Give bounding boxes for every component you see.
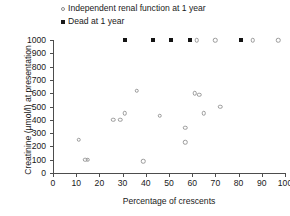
x-axis-tick-label: 0 [51,178,56,188]
chart-legend: Independent renal function at 1 year Dea… [58,3,206,27]
filled-square-marker-icon [58,20,68,24]
legend-item-label: Independent renal function at 1 year [68,3,206,14]
data-point [111,118,116,123]
y-axis-tick-label: 800 [32,62,46,72]
data-point [183,126,188,131]
x-axis-tick [215,173,216,177]
y-axis-tick-label: 500 [32,102,46,112]
data-point [151,38,155,42]
y-axis-tick-label: 900 [32,48,46,58]
legend-item-dead-at-1-year: Dead at 1 year [58,16,206,27]
y-axis-tick: 900 [50,53,54,54]
legend-item-label: Dead at 1 year [68,16,124,27]
x-axis-tick [239,173,240,177]
plot-area: 01002003004005006007008009001000 0102030… [53,40,285,173]
x-axis-tick [53,173,54,177]
y-axis-tick: 200 [50,146,54,147]
x-axis-tick [192,173,193,177]
y-axis-tick-label: 1000 [27,35,46,45]
x-axis-tick-label: 100 [278,178,290,188]
data-point [276,38,281,43]
y-axis-tick: 100 [50,160,54,161]
y-axis-tick: 1000 [50,40,54,41]
x-axis-tick-label: 80 [234,178,244,188]
legend-item-independent-renal-function: Independent renal function at 1 year [58,3,206,14]
data-point [86,157,91,162]
data-point [195,38,200,43]
x-axis-tick [123,173,124,177]
data-point [76,138,81,143]
y-axis-tick: 400 [50,120,54,121]
y-axis-tick-label: 300 [32,128,46,138]
data-point [183,140,188,145]
data-point [118,118,123,123]
y-axis-tick-label: 400 [32,115,46,125]
y-axis-tick: 300 [50,133,54,134]
y-axis-tick: 500 [50,107,54,108]
data-point [213,38,218,43]
data-point [218,104,223,109]
open-circle-marker-icon [58,7,68,11]
x-axis-tick-label: 90 [257,178,267,188]
y-axis-tick: 600 [50,93,54,94]
x-axis-tick [169,173,170,177]
y-axis-tick-label: 700 [32,75,46,85]
x-axis-tick-label: 50 [164,178,174,188]
y-axis-tick-label: 200 [32,141,46,151]
y-axis-tick: 800 [50,67,54,68]
y-axis-tick-label: 600 [32,88,46,98]
x-axis-tick-label: 40 [141,178,151,188]
data-point [123,111,128,116]
data-point [202,111,207,116]
x-axis-tick [99,173,100,177]
x-axis-tick [76,173,77,177]
data-point [134,88,139,93]
x-axis-tick [285,173,286,177]
x-axis-title: Percentage of crescents [53,196,285,206]
data-point [157,114,162,119]
x-axis-tick-label: 60 [187,178,197,188]
data-point [250,38,255,43]
data-point [169,38,173,42]
x-axis-tick-label: 20 [95,178,105,188]
x-axis-tick [146,173,147,177]
data-point [197,92,202,97]
data-point [239,38,243,42]
x-axis-tick-label: 70 [211,178,221,188]
y-axis-tick-label: 0 [41,168,46,178]
data-point [188,38,192,42]
x-axis-tick-label: 30 [118,178,128,188]
data-point [141,159,146,164]
data-point [123,38,127,42]
x-axis-tick-label: 10 [71,178,81,188]
y-axis-tick: 700 [50,80,54,81]
y-axis-tick-label: 100 [32,155,46,165]
scatter-plot-figure: Independent renal function at 1 year Dea… [0,0,290,216]
x-axis-tick [262,173,263,177]
